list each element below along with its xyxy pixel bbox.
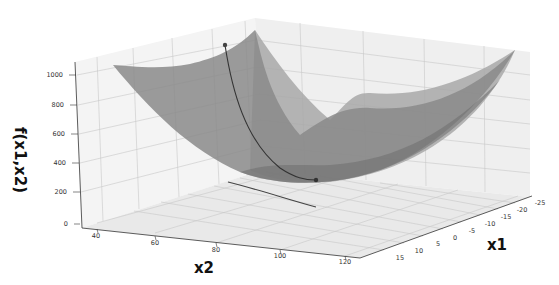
x1-tick-label: 0 bbox=[453, 234, 457, 242]
x1-tick-label: 5 bbox=[436, 240, 440, 248]
x1-tick-label: 10 bbox=[415, 247, 423, 255]
z-tick-label: 0 bbox=[64, 220, 68, 228]
x1-tick-label: -10 bbox=[485, 220, 496, 228]
x1-tick-label: -25 bbox=[535, 199, 546, 207]
z-axis-label: f(x1,x2) bbox=[11, 127, 29, 193]
z-tick-label: 1000 bbox=[46, 71, 63, 79]
surface-3d-chart: 0 200 400 600 800 1000 40 60 80 100 120 … bbox=[0, 0, 559, 285]
z-ticks: 0 200 400 600 800 1000 bbox=[46, 71, 80, 228]
z-tick-label: 400 bbox=[54, 159, 66, 167]
x2-tick-label: 40 bbox=[92, 232, 100, 240]
x1-tick-label: -5 bbox=[469, 227, 475, 235]
x1-tick-label: 15 bbox=[396, 254, 404, 262]
start-marker bbox=[223, 43, 227, 47]
z-tick-label: 800 bbox=[52, 101, 64, 109]
z-tick-label: 200 bbox=[55, 188, 67, 196]
x2-tick-label: 120 bbox=[339, 258, 351, 266]
x1-tick-label: -15 bbox=[501, 213, 512, 221]
x2-axis-label: x2 bbox=[194, 259, 214, 277]
z-tick-label: 600 bbox=[53, 130, 65, 138]
x2-tick-label: 80 bbox=[212, 246, 220, 254]
end-marker bbox=[314, 178, 318, 182]
x1-tick-label: -20 bbox=[517, 206, 528, 214]
x1-axis-label: x1 bbox=[487, 236, 507, 254]
x2-tick-label: 100 bbox=[274, 252, 286, 260]
x2-tick-label: 60 bbox=[151, 239, 159, 247]
